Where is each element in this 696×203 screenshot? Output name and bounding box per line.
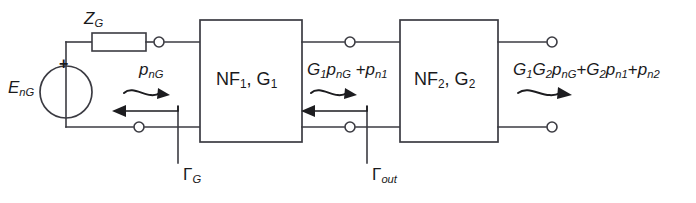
forward-power-arrow-1 xyxy=(124,90,160,95)
terminal-input-top xyxy=(154,37,164,47)
block-label-stage-1: NF1, G1 xyxy=(216,70,277,91)
gamma-source-label: ΓG xyxy=(183,166,201,185)
circuit-diagram: ZG + EnG pnG ΓG NF1, G1 G1pnG +pn1 Γout … xyxy=(0,0,696,203)
terminal-output-bottom xyxy=(547,122,557,132)
reverse-power-arrowhead-1 xyxy=(112,105,126,117)
reverse-power-arrowhead-2 xyxy=(301,105,315,117)
forward-power-arrow-2 xyxy=(311,90,347,95)
source-polarity-label: + xyxy=(59,56,68,72)
forward-power-arrowhead-2 xyxy=(344,88,357,99)
terminal-interstage-top xyxy=(345,37,355,47)
reverse-power-arrow-1 xyxy=(124,106,178,111)
forward-power-arrowhead-1 xyxy=(157,88,170,99)
forward-power-arrowhead-3 xyxy=(557,87,572,99)
block-label-stage-2: NF2, G2 xyxy=(414,70,475,91)
terminal-output-top xyxy=(547,37,557,47)
impedance-label: ZG xyxy=(84,10,103,29)
reverse-power-arrow-2 xyxy=(313,106,367,111)
interstage-power-label: G1pnG +pn1 xyxy=(307,61,388,80)
source-label: EnG xyxy=(8,79,34,98)
circuit-schematic-svg xyxy=(0,0,696,203)
forward-power-arrow-3 xyxy=(518,90,560,95)
terminal-interstage-bottom xyxy=(345,122,355,132)
resistor-symbol xyxy=(92,33,146,51)
input-power-label: pnG xyxy=(139,61,163,80)
gamma-output-label: Γout xyxy=(372,166,397,185)
output-power-label: G1G2pnG+G2pn1+pn2 xyxy=(513,61,660,80)
terminal-input-bottom xyxy=(134,122,144,132)
